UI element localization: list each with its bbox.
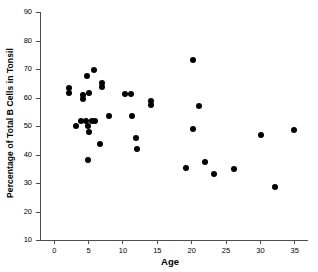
- data-point: [97, 141, 103, 147]
- x-axis-label: Age: [40, 256, 300, 267]
- data-point: [73, 123, 79, 129]
- x-tick-label: 15: [153, 246, 161, 255]
- plot-area: 102030405060708090 05101520253035: [40, 12, 308, 240]
- data-point: [148, 102, 154, 108]
- data-point: [92, 118, 98, 124]
- y-tick: 80: [36, 41, 40, 42]
- data-point: [202, 159, 208, 165]
- x-tick-label: 25: [222, 246, 230, 255]
- x-tick: 10: [122, 240, 123, 244]
- data-point: [86, 129, 92, 135]
- data-point: [291, 127, 297, 133]
- x-tick-label: 10: [119, 246, 127, 255]
- x-tick-label: 5: [87, 246, 91, 255]
- y-tick-label: 60: [24, 93, 32, 102]
- data-point: [134, 146, 140, 152]
- x-tick-label: 0: [52, 246, 56, 255]
- data-point: [196, 103, 202, 109]
- data-point: [99, 84, 105, 90]
- x-tick: 35: [294, 240, 295, 244]
- data-point: [190, 57, 196, 63]
- y-tick-label: 70: [24, 64, 32, 73]
- data-point: [85, 157, 91, 163]
- data-point: [91, 67, 97, 73]
- y-axis-spine: [40, 12, 41, 240]
- x-tick: 30: [260, 240, 261, 244]
- y-tick-label: 80: [24, 36, 32, 45]
- y-tick: 60: [36, 98, 40, 99]
- x-tick-label: 35: [291, 246, 299, 255]
- y-tick-label: 40: [24, 150, 32, 159]
- x-tick: 0: [54, 240, 55, 244]
- x-axis-spine: [40, 240, 308, 241]
- y-tick: 10: [36, 240, 40, 241]
- y-tick-label: 10: [24, 235, 32, 244]
- y-tick-label: 20: [24, 207, 32, 216]
- data-point: [272, 184, 278, 190]
- x-tick-label: 30: [256, 246, 264, 255]
- y-tick-label: 90: [24, 7, 32, 16]
- y-tick: 30: [36, 183, 40, 184]
- data-point: [129, 113, 135, 119]
- y-axis-label-text: Percentage of Total B Cells in Tonsil: [5, 48, 15, 198]
- data-point: [84, 73, 90, 79]
- y-tick: 40: [36, 155, 40, 156]
- data-point: [122, 91, 128, 97]
- x-tick-label: 20: [188, 246, 196, 255]
- scatter-plot-figure: Percentage of Total B Cells in Tonsil 10…: [0, 0, 318, 272]
- data-point: [183, 165, 189, 171]
- data-point: [211, 171, 217, 177]
- x-tick: 5: [88, 240, 89, 244]
- y-tick: 70: [36, 69, 40, 70]
- data-point: [66, 90, 72, 96]
- data-point: [258, 132, 264, 138]
- y-tick: 50: [36, 126, 40, 127]
- data-point: [133, 135, 139, 141]
- data-point: [231, 166, 237, 172]
- x-tick: 25: [226, 240, 227, 244]
- data-point: [86, 90, 92, 96]
- y-tick: 90: [36, 12, 40, 13]
- x-tick: 15: [157, 240, 158, 244]
- y-axis-label: Percentage of Total B Cells in Tonsil: [0, 0, 20, 246]
- y-tick-label: 30: [24, 178, 32, 187]
- x-tick: 20: [191, 240, 192, 244]
- data-point: [80, 96, 86, 102]
- data-point: [106, 113, 112, 119]
- data-point: [128, 91, 134, 97]
- y-tick: 20: [36, 212, 40, 213]
- y-tick-label: 50: [24, 121, 32, 130]
- data-point: [190, 126, 196, 132]
